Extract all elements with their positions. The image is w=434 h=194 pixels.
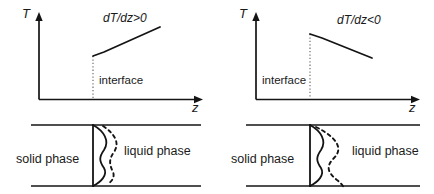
right-gradient-label: dT/dz<0 [337,13,381,27]
figure-container: T z dT/dz>0 interface [0,0,434,194]
right-interface-solid-curve [310,125,323,186]
left-interface-solid-curve [93,125,106,186]
right-t-axis-label: T [239,6,248,21]
right-solid-phase-label: solid phase [231,152,294,166]
left-z-axis [39,96,203,103]
left-t-axis-label: T [22,6,31,21]
right-interface-label: interface [262,74,306,86]
right-z-axis [256,96,420,103]
left-interface-label: interface [99,74,143,86]
panel-right: T z dT/dz<0 interface [231,6,420,188]
left-temperature-profile-line [93,27,160,56]
left-solid-phase-label: solid phase [16,152,79,166]
left-liquid-phase-label: liquid phase [124,144,191,158]
diagram-svg: T z dT/dz>0 interface [0,0,434,194]
left-t-axis-arrowhead [35,12,42,21]
right-t-axis-arrowhead [252,12,259,21]
right-temperature-profile-line [310,34,372,58]
left-z-axis-label: z [191,100,199,115]
left-temperature-axis [35,12,42,100]
panel-left: T z dT/dz>0 interface [16,6,203,186]
right-z-axis-label: z [408,100,416,115]
right-temperature-axis [252,12,259,100]
right-liquid-phase-label: liquid phase [352,144,419,158]
left-gradient-label: dT/dz>0 [103,11,147,25]
